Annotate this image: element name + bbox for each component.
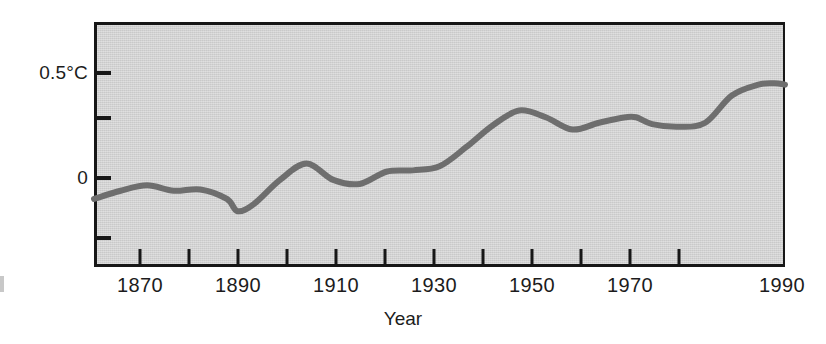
x-tick-label-1930: 1930 [411,274,457,297]
x-tick-label-1870: 1870 [117,274,163,297]
y-tick-label-0-5: 0.5°C [39,62,88,84]
x-tick-label-1970: 1970 [607,274,653,297]
x-tick-label-1990: 1990 [759,274,805,297]
plot-canvas [94,22,785,267]
x-axis-title-text: Year [384,308,422,329]
x-axis-title: Year [0,308,826,330]
y-axis-ticks [94,73,111,238]
temperature-anomaly-line [94,83,785,211]
x-tick-label-1890: 1890 [215,274,261,297]
temperature-anomaly-figure: 0.5°C 0 1870 1890 1910 1930 1950 1970 19… [0,0,826,344]
x-axis-ticks [140,249,679,267]
x-tick-label-1910: 1910 [313,274,359,297]
y-tick-label-0: 0 [77,167,88,189]
scan-artifact [0,276,4,292]
x-tick-label-1950: 1950 [509,274,555,297]
y-axis-labels: 0.5°C 0 [0,0,88,344]
